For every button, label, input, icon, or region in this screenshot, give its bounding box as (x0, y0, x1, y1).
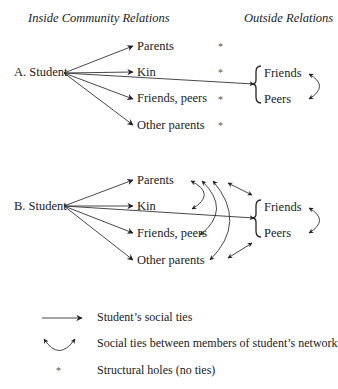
panel-b-outside-brace (252, 200, 261, 237)
asterisk-icon: * (218, 42, 223, 52)
asterisk-icon: * (218, 95, 223, 105)
header-inside-relations: Inside Community Relations (28, 12, 170, 25)
tie-arrow-parents (64, 46, 133, 73)
tie-arrow-outside (64, 73, 254, 84)
panel-b-student-label: B. Student (14, 200, 67, 213)
panel-b-target-parents: Parents (137, 174, 174, 187)
tie-arrow-kin (64, 72, 133, 73)
panel-a-target-parents: Parents (137, 40, 174, 53)
tie-arrow-parents (64, 180, 133, 206)
panel-a-target-kin: Kin (137, 66, 156, 79)
panel-b-target-kin: Kin (137, 200, 156, 213)
panel-a-outside-brace (252, 66, 261, 103)
curved-double-arrow-icon (44, 339, 75, 351)
panel-a-outside-peers: Peers (264, 93, 291, 106)
asterisk-icon: * (218, 68, 223, 78)
panel-b-outside-peers: Peers (264, 227, 291, 240)
legend-label-network-ties: Social ties between members of student’s… (97, 337, 338, 349)
panel-b-network-ties (191, 181, 252, 260)
panel-a-outside-friends: Friends (264, 67, 302, 80)
legend-label-student-ties: Student’s social ties (97, 311, 192, 323)
panel-a-student-ties (64, 46, 254, 125)
asterisk-icon: * (218, 121, 223, 131)
panel-b-target-friends-peers: Friends, peers (137, 227, 207, 240)
tie-parents-outside (228, 183, 252, 195)
legend-label-structural-holes: Structural holes (no ties) (97, 364, 215, 376)
asterisk-icon: * (56, 366, 61, 376)
panel-b-student-ties (64, 180, 254, 260)
panel-a-student-label: A. Student (14, 66, 67, 79)
panel-a-target-other-parents: Other parents (137, 119, 205, 132)
panel-a-friends-peers-tie (309, 74, 320, 99)
panel-b-outside-friends: Friends (264, 201, 302, 214)
panel-b-friends-peers-tie (309, 208, 320, 233)
tie-other-parents-outside (228, 243, 252, 258)
tie-arrow-outside (64, 206, 254, 218)
panel-b-target-other-parents: Other parents (137, 254, 205, 267)
tie-arrow-other-parents (64, 73, 133, 125)
tie-parents-kin (191, 181, 204, 209)
header-outside-relations: Outside Relations (244, 12, 333, 25)
panel-a-target-friends-peers: Friends, peers (137, 92, 207, 105)
tie-arrow-friends-peers (64, 73, 133, 99)
tie-arrow-other-parents (64, 206, 133, 260)
